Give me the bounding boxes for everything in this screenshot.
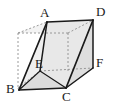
vertex-label-A: A [40, 6, 49, 19]
faces-group [18, 20, 93, 90]
vertex-label-B: B [6, 82, 15, 95]
vertex-label-D: D [96, 5, 105, 18]
vertex-label-C: C [62, 90, 71, 103]
geometry-figure: A D B C E F [0, 0, 113, 106]
vertex-label-F: F [96, 56, 103, 69]
vertex-label-E: E [35, 57, 43, 70]
